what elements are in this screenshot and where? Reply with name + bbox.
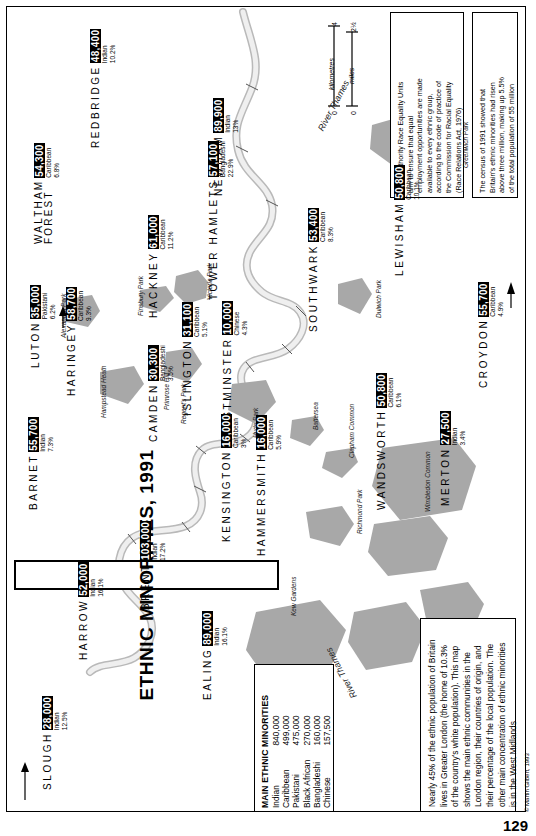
- borough-label-merton: MERTON 27,500 Indian 3.4%: [440, 411, 466, 506]
- legend-value: 840,000: [271, 715, 281, 759]
- borough-label-lewisham: LEWISHAM 50,800 Caribbean 10.1%: [394, 165, 420, 276]
- borough-group: Caribbean: [77, 287, 85, 321]
- borough-percent: 10.1%: [413, 165, 421, 199]
- borough-count: 50,800: [376, 373, 387, 407]
- borough-percent: 10.2%: [109, 29, 117, 63]
- note-census-1991-text: The census of 1991 showed that Britain's…: [478, 77, 516, 193]
- park-label-kew: Kew Gardens: [290, 577, 298, 616]
- borough-count: 30,300: [148, 345, 159, 381]
- borough-count: 58,700: [66, 287, 77, 321]
- borough-count: 50,800: [394, 165, 405, 199]
- borough-group: Indian: [213, 611, 221, 645]
- borough-count: 16,000: [221, 414, 232, 448]
- note-census-1991: The census of 1991 showed that Britain's…: [472, 12, 518, 198]
- legend-row: Pakistani 475,000: [291, 715, 301, 808]
- borough-name: LUTON: [30, 321, 41, 368]
- borough-group: Caribbean: [159, 215, 167, 249]
- borough-count: 48,400: [90, 29, 101, 63]
- borough-name: ISLINGTON: [182, 339, 193, 416]
- legend-main-ethnic-minorities: MAIN ETHNIC MINORITIES Indian 840,000 Ca…: [254, 664, 334, 812]
- borough-group: Bangladeshi: [159, 345, 167, 381]
- borough-count: 31,100: [182, 302, 193, 336]
- borough-count: 54,300: [34, 143, 45, 177]
- borough-label-hammersmith: HAMMERSMITH 16,000 Caribbean 5.9%: [256, 415, 282, 556]
- legend-value: 475,000: [291, 715, 301, 759]
- borough-name: SLOUGH: [42, 732, 53, 790]
- park-label-wimbledon: Wimbledon Common: [424, 451, 432, 512]
- paragraph-line: their percentage of the local population…: [485, 639, 497, 807]
- borough-label-ealing: EALING 89,000 Indian 16.1%: [202, 611, 228, 700]
- borough-group: Chinese: [233, 301, 241, 335]
- borough-group: Caribbean: [319, 208, 327, 242]
- note-line: the Commission for Racial Equality: [444, 78, 454, 193]
- paragraph-line: is in the West Midlands: [508, 639, 520, 807]
- borough-group: Pakistani: [41, 285, 49, 319]
- borough-count: 57,100: [208, 141, 219, 177]
- borough-group: Caribbean: [387, 373, 395, 407]
- page-number: 129: [503, 817, 528, 834]
- croydon-arrow-icon: [500, 282, 522, 310]
- borough-percent: 22.9%: [227, 141, 235, 177]
- scale-mi-max: 2½: [350, 22, 357, 32]
- borough-name: HAMMERSMITH: [256, 452, 267, 556]
- borough-label-islington: ISLINGTON 31,100 Caribbean 5.1%: [182, 302, 208, 416]
- borough-percent: 8.3%: [327, 208, 335, 242]
- borough-name: LEWISHAM: [394, 202, 405, 276]
- borough-label-tower-hamlets: TOWER HAMLETS 57,100 Bangladeshi 22.9%: [208, 141, 234, 300]
- legend-heading: MAIN ETHNIC MINORITIES: [260, 695, 270, 808]
- borough-group: Caribbean: [267, 415, 275, 449]
- borough-group: Caribbean: [232, 414, 240, 448]
- borough-count: 28,000: [42, 696, 53, 730]
- borough-name: HARROW: [78, 599, 89, 660]
- paragraph-line: lives in Greater London (the home of 10.…: [439, 639, 451, 807]
- scale-km-label: kilometres: [328, 58, 335, 90]
- borough-label-waltham-forest: WALTHAM FOREST 54,300 Caribbean 6.8%: [34, 143, 60, 244]
- legend-row: Bangladeshi 160,000: [312, 715, 322, 808]
- borough-name: HACKNEY: [148, 251, 159, 318]
- legend-group: Pakistani: [291, 760, 301, 808]
- borough-percent: 5.1%: [201, 302, 209, 336]
- park-label-finsbury: Finsbury Park: [137, 276, 145, 316]
- park-label-battersea: Battersea: [312, 402, 320, 430]
- paragraph-line: shows the main ethnic communities in the: [462, 639, 474, 807]
- borough-percent: 3.4%: [459, 411, 467, 445]
- paragraph-text: Nearly 45% of the ethnic population of B…: [427, 639, 520, 807]
- borough-count: 27,500: [440, 411, 451, 445]
- legend-row: Chinese 157,500: [322, 715, 332, 808]
- borough-count: 89,900: [213, 98, 224, 132]
- borough-label-wandsworth: WANDSWORTH 50,800 Caribbean 6.1%: [376, 373, 402, 510]
- borough-count: 16,000: [256, 415, 267, 449]
- park-label-greenwich: Greenwich Park: [462, 122, 470, 168]
- legend-group: Black African: [302, 760, 312, 808]
- borough-percent: 7.3%: [47, 417, 55, 451]
- borough-label-southwark: SOUTHWARK 53,400 Caribbean 8.3%: [308, 208, 334, 332]
- note-line: according to the code of practice of: [434, 78, 444, 193]
- borough-label-redbridge: REDBRIDGE 48,400 Indian 10.2%: [90, 29, 116, 148]
- legend-value: 499,000: [281, 715, 291, 759]
- scale-km-max: 4: [331, 22, 338, 26]
- borough-label-slough: SLOUGH 28,000 Indian 12.5%: [42, 696, 68, 790]
- borough-name: CROYDON: [478, 319, 489, 388]
- borough-count: 55,700: [478, 282, 489, 316]
- legend-value: 157,500: [322, 715, 332, 759]
- note-line: available to every ethnic group,: [425, 78, 435, 193]
- legend-row: Indian 840,000: [271, 715, 281, 808]
- borough-percent: 3%: [240, 414, 248, 448]
- legend-table: Indian 840,000 Caribbean 499,000 Pakista…: [271, 715, 332, 808]
- borough-name: CAMDEN: [148, 383, 159, 442]
- legend-group: Caribbean: [281, 760, 291, 808]
- park-label-dulwich: Dulwich Park: [375, 280, 383, 318]
- note-line: The census of 1991 showed that: [478, 77, 488, 193]
- borough-name: BRENT: [140, 563, 151, 610]
- borough-percent: 12.5%: [61, 696, 69, 730]
- borough-label-brent: BRENT 103,000 Indian 17.2%: [140, 521, 166, 610]
- borough-name: HARINGEY: [66, 323, 77, 396]
- borough-count: 35,000: [30, 285, 41, 319]
- park-label-hampstead: Hampstead Heath: [100, 366, 108, 418]
- park-label-richmond: Richmond Park: [356, 490, 364, 534]
- borough-label-harrow: HARROW 52,000 Indian 16.1%: [78, 562, 104, 660]
- borough-count: 103,000: [140, 521, 151, 561]
- paragraph-line: other main concentration of ethnic minor…: [497, 639, 509, 807]
- legend-row: Black African 270,000: [302, 715, 312, 808]
- borough-percent: 5.9%: [275, 415, 283, 449]
